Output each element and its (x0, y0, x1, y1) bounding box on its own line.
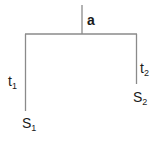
left-edge-label: t1 (8, 74, 17, 91)
left-leaf-label: S1 (22, 116, 36, 133)
root-label: a (87, 13, 95, 27)
right-leaf-label: S2 (133, 90, 147, 107)
right-edge-label: t2 (140, 61, 149, 78)
